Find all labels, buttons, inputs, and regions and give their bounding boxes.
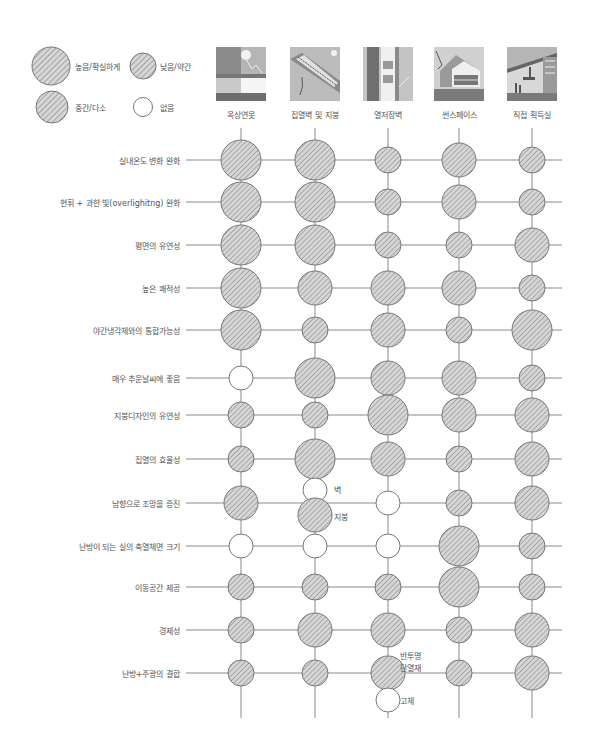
hatched-circle-icon <box>368 395 408 435</box>
hatched-circle-icon <box>442 398 476 432</box>
hatched-circle-icon <box>442 185 476 219</box>
hatched-circle-icon <box>442 361 476 395</box>
annotation-solid: 고체 <box>400 695 414 706</box>
hatched-circle-icon <box>515 613 549 647</box>
hatched-circle-icon <box>302 660 328 686</box>
hatched-circle-icon <box>519 275 545 301</box>
hatched-circle-icon <box>515 398 549 432</box>
hatched-circle-icon <box>519 147 545 173</box>
comparison-matrix <box>0 0 594 745</box>
hatched-circle-icon <box>515 486 549 520</box>
hatched-circle-icon <box>375 147 401 173</box>
hatched-circle-icon <box>302 402 328 428</box>
hatched-circle-icon <box>446 490 472 516</box>
hatched-circle-icon <box>512 310 552 350</box>
rating-circles <box>221 140 552 712</box>
hatched-circle-icon <box>295 140 335 180</box>
hatched-circle-icon <box>515 228 549 262</box>
hatched-circle-icon <box>221 310 261 350</box>
hatched-circle-icon <box>519 533 545 559</box>
hatched-circle-icon <box>446 446 472 472</box>
hatched-circle-icon <box>221 268 261 308</box>
hatched-circle-icon <box>298 271 332 305</box>
hatched-circle-icon <box>375 574 401 600</box>
hatched-circle-icon <box>375 232 401 258</box>
hatched-circle-icon <box>228 574 254 600</box>
hatched-circle-icon <box>446 232 472 258</box>
hatched-circle-icon <box>371 313 405 347</box>
hatched-circle-icon <box>371 613 405 647</box>
hatched-circle-icon <box>298 498 332 532</box>
hatched-circle-icon <box>375 189 401 215</box>
hatched-circle-icon <box>442 271 476 305</box>
hatched-circle-icon <box>224 486 258 520</box>
hatched-circle-icon <box>371 361 405 395</box>
hatched-circle-icon <box>446 617 472 643</box>
empty-circle-icon <box>303 534 327 558</box>
hatched-circle-icon <box>228 660 254 686</box>
hatched-circle-icon <box>519 574 545 600</box>
hatched-circle-icon <box>295 439 335 479</box>
hatched-circle-icon <box>371 271 405 305</box>
hatched-circle-icon <box>302 574 328 600</box>
hatched-circle-icon <box>295 358 335 398</box>
empty-circle-icon <box>229 534 253 558</box>
annotation-translucent-1: 반투명 <box>400 650 421 661</box>
empty-circle-icon <box>376 491 400 515</box>
hatched-circle-icon <box>515 656 549 690</box>
hatched-circle-icon <box>298 613 332 647</box>
hatched-circle-icon <box>446 660 472 686</box>
annotation-translucent-2: 단열재 <box>400 662 421 673</box>
hatched-circle-icon <box>519 189 545 215</box>
hatched-circle-icon <box>228 446 254 472</box>
annotation-roof: 지붕 <box>334 511 348 522</box>
hatched-circle-icon <box>228 402 254 428</box>
hatched-circle-icon <box>221 140 261 180</box>
annotation-wall: 벽 <box>334 484 341 495</box>
hatched-circle-icon <box>221 225 261 265</box>
hatched-circle-icon <box>439 526 479 566</box>
empty-circle-icon <box>376 688 400 712</box>
hatched-circle-icon <box>295 182 335 222</box>
hatched-circle-icon <box>442 143 476 177</box>
empty-circle-icon <box>229 366 253 390</box>
hatched-circle-icon <box>295 225 335 265</box>
hatched-circle-icon <box>221 182 261 222</box>
hatched-circle-icon <box>446 317 472 343</box>
hatched-circle-icon <box>439 567 479 607</box>
hatched-circle-icon <box>515 442 549 476</box>
empty-circle-icon <box>376 534 400 558</box>
hatched-circle-icon <box>371 442 405 476</box>
hatched-circle-icon <box>519 365 545 391</box>
hatched-circle-icon <box>302 317 328 343</box>
hatched-circle-icon <box>228 617 254 643</box>
